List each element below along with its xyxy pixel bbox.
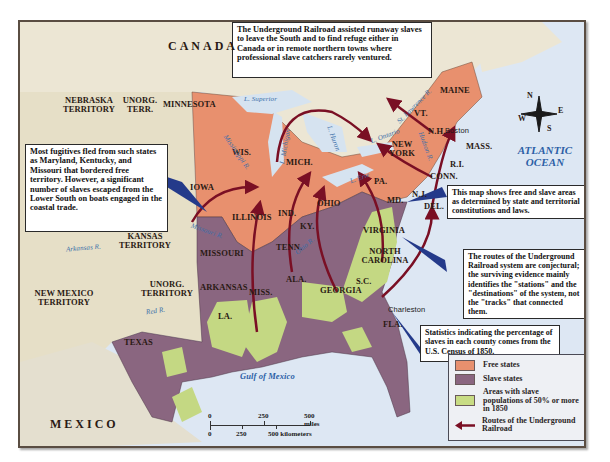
scale-miles-500: 500 miles xyxy=(304,412,326,428)
label-lake-superior: L. Superior xyxy=(244,95,277,104)
compass-n: N xyxy=(527,91,533,100)
label-miss: MISS. xyxy=(249,288,272,297)
note-text: The routes of the Underground Railroad s… xyxy=(468,252,579,316)
city-boston: Boston xyxy=(445,126,469,135)
label-conn: CONN. xyxy=(430,172,458,181)
label-mich: MICH. xyxy=(286,158,313,167)
label-ind: IND. xyxy=(278,209,296,218)
label-ala: ALA. xyxy=(286,275,306,284)
label-la: LA. xyxy=(218,312,232,321)
label-minnesota: MINNESOTA xyxy=(163,100,216,109)
scale-miles-250: 250 xyxy=(258,412,269,420)
note-text: The Underground Railroad assisted runawa… xyxy=(237,25,422,62)
label-arkansas: ARKANSAS xyxy=(200,283,248,292)
label-del: DEL. xyxy=(424,202,444,211)
note-free-slave-areas: This map shows free and slave areas as d… xyxy=(447,185,586,219)
label-north-carolina: NORTH CAROLINA xyxy=(360,247,410,265)
free-states-swatch xyxy=(455,360,475,371)
note-text: Statistics indicating the percentage of … xyxy=(425,328,552,356)
label-nh: N.H. xyxy=(428,127,445,136)
label-gulf-of-mexico: Gulf of Mexico xyxy=(240,372,295,381)
label-canada: CANADA xyxy=(168,42,238,51)
legend-free-states: Free states xyxy=(455,360,580,371)
label-mexico: MEXICO xyxy=(50,420,119,429)
label-georgia: GEORGIA xyxy=(320,286,362,295)
label-nj: N.J. xyxy=(412,190,427,199)
note-routes-conjectural: The routes of the Underground Railroad s… xyxy=(463,249,586,319)
note-text: This map shows free and slave areas as d… xyxy=(452,188,580,215)
label-ohio: OHIO xyxy=(317,199,341,208)
label-md: MD. xyxy=(387,196,404,205)
label-missouri: MISSOURI xyxy=(200,249,244,258)
compass-e: E xyxy=(558,106,563,115)
scale-miles-0: 0 xyxy=(208,412,212,420)
label-unorg-territory: UNORG. TERRITORY xyxy=(132,280,202,298)
label-ri: R.I. xyxy=(450,160,464,169)
majority-slave-swatch xyxy=(455,395,475,406)
city-charleston: Charleston xyxy=(388,305,425,314)
note-underground-railroad-intro: The Underground Railroad assisted runawa… xyxy=(232,22,432,78)
label-texas: TEXAS xyxy=(124,338,153,347)
label-illinois: ILLINOIS xyxy=(232,213,272,222)
note-fugitives: Most fugitives fled from such states as … xyxy=(25,144,168,232)
note-text: Most fugitives fled from such states as … xyxy=(30,147,162,212)
label-unorg-terr: UNORG. TERR. xyxy=(120,96,160,114)
legend-routes: Routes of the Underground Railroad xyxy=(455,417,580,434)
scale-km-250: 250 xyxy=(236,430,247,438)
scale-bar: 0 250 500 miles 0 250 500 kilometers xyxy=(206,414,326,444)
compass-s: S xyxy=(547,124,552,133)
map-frame: The Underground Railroad assisted runawa… xyxy=(18,20,586,448)
label-new-mexico-territory: NEW MEXICO TERRITORY xyxy=(24,289,104,307)
legend: Free states Slave states Areas with slav… xyxy=(448,354,586,441)
label-iowa: IOWA xyxy=(190,183,214,192)
legend-slave-states: Slave states xyxy=(455,374,580,385)
label-ky: KY. xyxy=(300,222,314,231)
scale-km-500: 500 kilometers xyxy=(268,430,312,438)
label-nebraska-territory: NEBRASKA TERRITORY xyxy=(54,96,124,114)
legend-majority-slave-areas: Areas with slave populations of 50% or m… xyxy=(455,388,580,414)
label-fla: FLA. xyxy=(383,320,403,329)
slave-states-swatch xyxy=(455,374,475,385)
scale-km-0: 0 xyxy=(208,430,212,438)
label-pa: PA. xyxy=(374,177,387,186)
label-virginia: VIRGINIA xyxy=(363,226,405,235)
label-maine: MAINE xyxy=(440,86,470,95)
label-new-york: NEW YORK xyxy=(382,140,422,158)
label-kansas-territory: KANSAS TERRITORY xyxy=(110,232,180,250)
compass-w: W xyxy=(518,114,526,123)
label-atlantic-ocean: ATLANTIC OCEAN xyxy=(510,144,580,168)
route-arrow-icon xyxy=(455,421,475,430)
label-mass: MASS. xyxy=(466,142,492,151)
